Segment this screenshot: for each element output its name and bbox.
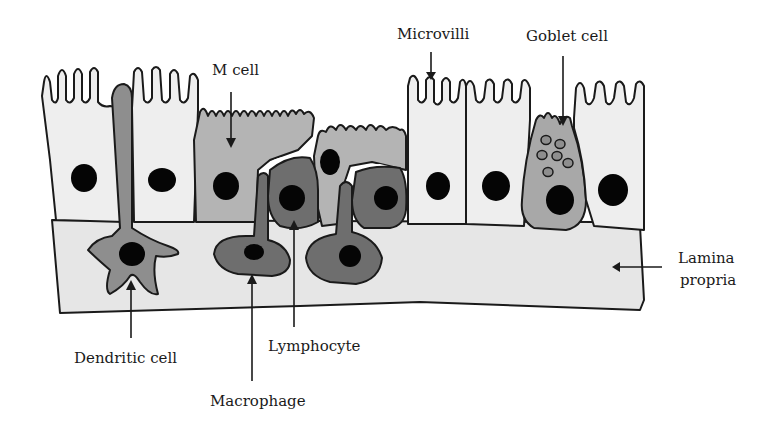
- enterocyte-3: [408, 76, 466, 224]
- label-microvilli: Microvilli: [397, 26, 469, 43]
- enterocyte-2: [132, 67, 198, 222]
- enterocyte-4: [466, 79, 530, 226]
- label-lymphocyte: Lymphocyte: [268, 338, 360, 355]
- label-macrophage: Macrophage: [210, 393, 306, 410]
- label-dendritic-cell: Dendritic cell: [74, 350, 177, 367]
- label-goblet-cell: Goblet cell: [526, 28, 608, 45]
- label-lamina-propria-line1: Lamina: [678, 250, 735, 267]
- gut-epithelium-diagram: M cell Microvilli Goblet cell Lamina pro…: [0, 0, 782, 438]
- label-m-cell: M cell: [212, 62, 259, 79]
- enterocyte-1: [42, 68, 124, 222]
- label-lamina-propria-line2: propria: [680, 272, 736, 289]
- diagram-illustration: [0, 0, 782, 438]
